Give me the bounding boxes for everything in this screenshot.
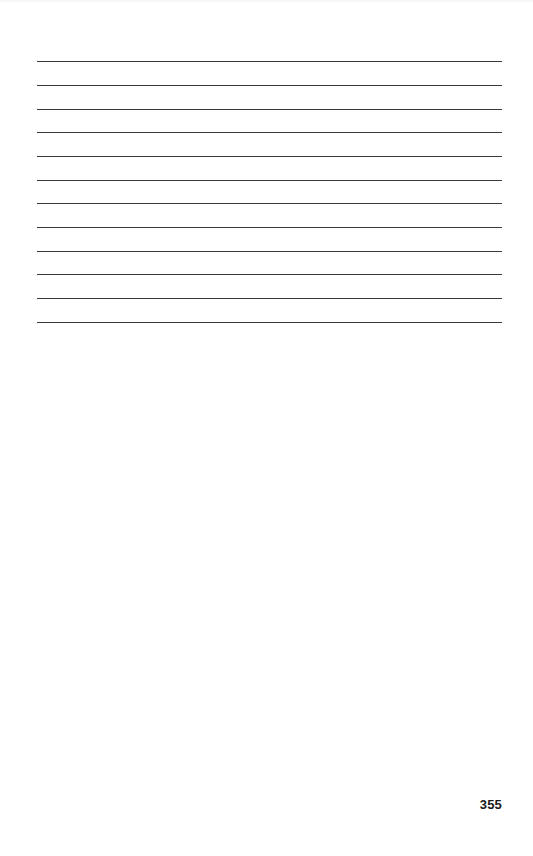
ruled-line: [37, 251, 502, 252]
page-top-edge: [0, 0, 533, 3]
ruled-line: [37, 109, 502, 110]
ruled-line: [37, 61, 502, 62]
document-page: 355: [0, 0, 533, 856]
ruled-line: [37, 156, 502, 157]
ruled-line: [37, 322, 502, 323]
ruled-line: [37, 274, 502, 275]
ruled-line: [37, 298, 502, 299]
ruled-line: [37, 180, 502, 181]
page-number: 355: [480, 797, 502, 812]
ruled-line: [37, 203, 502, 204]
ruled-line: [37, 85, 502, 86]
ruled-line: [37, 227, 502, 228]
ruled-line: [37, 132, 502, 133]
